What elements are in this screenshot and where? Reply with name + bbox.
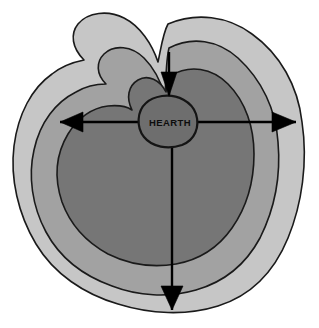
hearth-zones-diagram: HEARTH	[0, 0, 319, 328]
hearth-diagram-container: HEARTH	[0, 0, 319, 328]
hearth-label: HEARTH	[149, 117, 191, 128]
